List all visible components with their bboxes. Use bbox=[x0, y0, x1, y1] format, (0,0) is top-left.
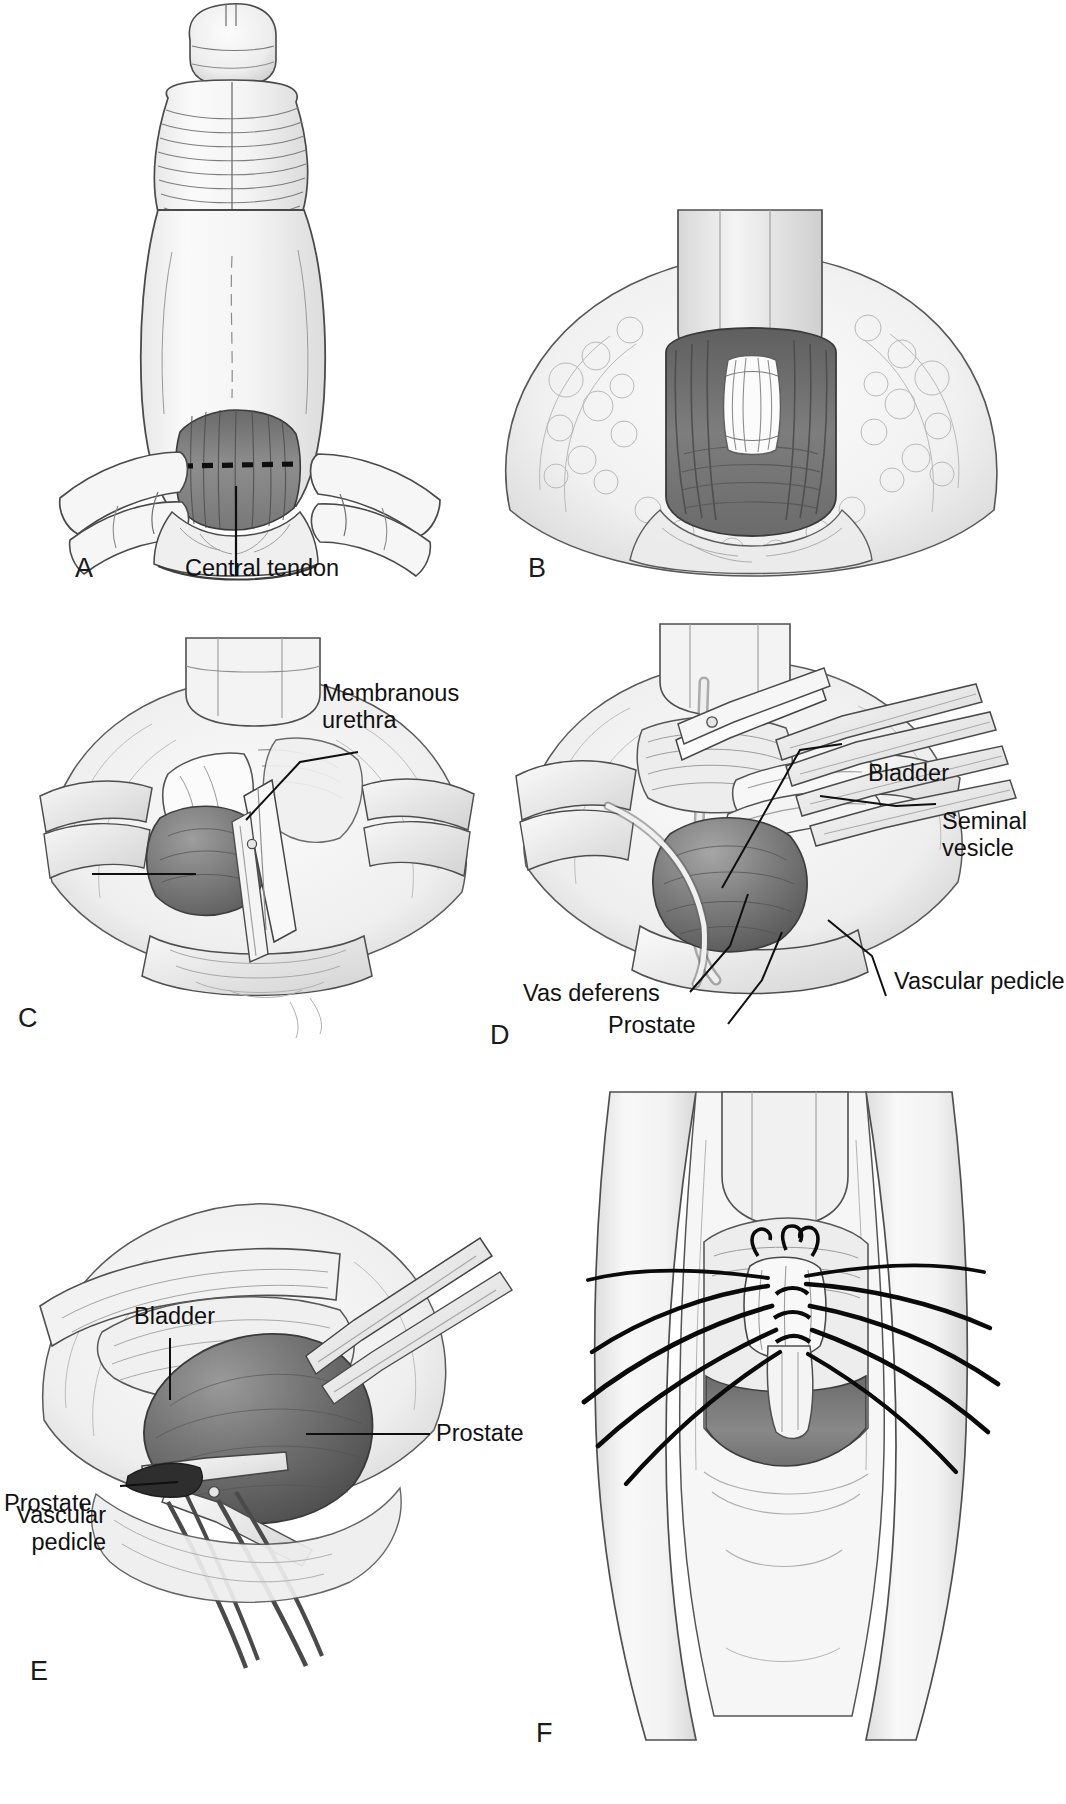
label-seminal-vesicle: Seminal vesicle bbox=[942, 808, 1027, 862]
panel-e-illustration bbox=[10, 1120, 530, 1680]
panel-letter-d: D bbox=[490, 1022, 510, 1049]
panel-b-illustration bbox=[470, 210, 1030, 630]
label-bladder-e: Bladder bbox=[134, 1303, 215, 1330]
panel-letter-e: E bbox=[30, 1658, 48, 1685]
panel-e: Bladder Vascular pedicle Prostate E bbox=[10, 1120, 530, 1680]
label-membranous-urethra: Membranous urethra bbox=[322, 680, 459, 734]
medical-figure: Central tendon A bbox=[0, 0, 1066, 1804]
label-vas-deferens: Vas deferens bbox=[523, 980, 660, 1007]
panel-letter-a: A bbox=[75, 555, 93, 582]
panel-b: B bbox=[470, 210, 1030, 630]
prostate-shape-d bbox=[653, 818, 807, 952]
panel-f-illustration bbox=[500, 1080, 1066, 1780]
panel-f: F bbox=[500, 1080, 1066, 1780]
panel-letter-b: B bbox=[528, 555, 546, 582]
panel-letter-f: F bbox=[536, 1720, 553, 1747]
label-prostate-d: Prostate bbox=[608, 1012, 696, 1039]
panel-c: Membranous urethra Prostate C bbox=[0, 630, 520, 1050]
panel-a-illustration bbox=[40, 0, 460, 620]
panel-a: Central tendon A bbox=[40, 0, 460, 620]
label-central-tendon: Central tendon bbox=[185, 555, 339, 582]
label-vascular-pedicle-e: Vascular pedicle bbox=[6, 1502, 106, 1556]
label-vascular-pedicle-d: Vascular pedicle bbox=[894, 968, 1065, 995]
panel-d: Bladder Seminal vesicle Vas deferens Pro… bbox=[490, 620, 1066, 1060]
panel-letter-c: C bbox=[18, 1005, 38, 1032]
label-bladder-d: Bladder bbox=[868, 760, 949, 787]
